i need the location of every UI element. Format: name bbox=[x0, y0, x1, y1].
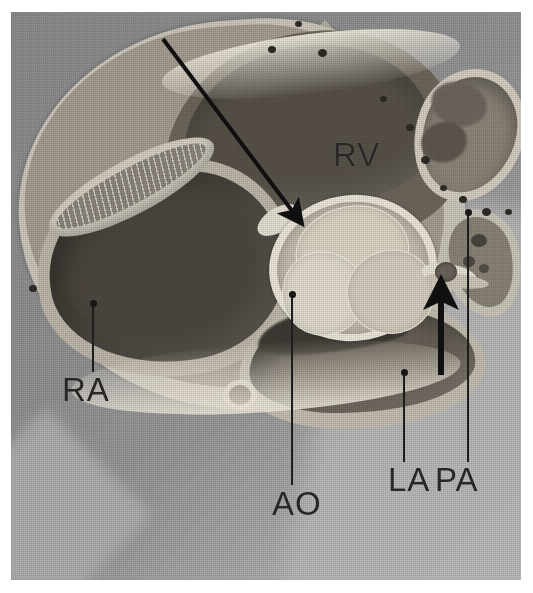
illustration-plate: RVRAAOLAPA bbox=[11, 12, 521, 580]
annotation-overlay: RVRAAOLAPA bbox=[11, 12, 521, 580]
pointer-arrow-vertical bbox=[11, 12, 521, 580]
figure-container: RVRAAOLAPA bbox=[0, 0, 533, 593]
